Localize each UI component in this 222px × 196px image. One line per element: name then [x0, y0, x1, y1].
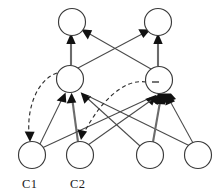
edge-c1-to-midleft — [40, 99, 62, 144]
node-bottom-three[interactable] — [137, 142, 164, 169]
edge-three-to-midright — [153, 102, 160, 142]
label-c1: C1 — [22, 177, 37, 191]
node-bottom-c2[interactable] — [67, 142, 94, 169]
node-bottom-c1[interactable] — [19, 142, 46, 169]
node-layer — [19, 9, 212, 169]
node-mid-right[interactable] — [146, 67, 173, 94]
edge-four-to-midright — [170, 101, 193, 143]
label-layer: C1 C2 — [22, 177, 85, 191]
edge-c2-to-midleft — [73, 101, 79, 142]
arrowhead-dashed-midleft-to-c1 — [25, 132, 35, 142]
node-top-right[interactable] — [145, 9, 172, 36]
arrowhead-c1-to-midleft — [57, 93, 67, 103]
arrowhead-three-to-midleft — [81, 92, 92, 104]
edge-midright-to-topleft — [88, 33, 151, 69]
node-bottom-four[interactable] — [185, 142, 212, 169]
arrowhead-c2-to-midleft — [67, 93, 77, 104]
diagram-canvas: C1 C2 — [0, 0, 222, 196]
edge-three-to-midleft — [86, 97, 140, 146]
edge-dashed-midleft-to-c1 — [29, 73, 57, 133]
node-top-left[interactable] — [59, 9, 86, 36]
graph-svg: C1 C2 — [0, 0, 222, 196]
node-mid-left[interactable] — [57, 66, 84, 93]
arrowhead-dashed-midright-to-c2 — [77, 129, 87, 140]
label-c2: C2 — [70, 177, 85, 191]
